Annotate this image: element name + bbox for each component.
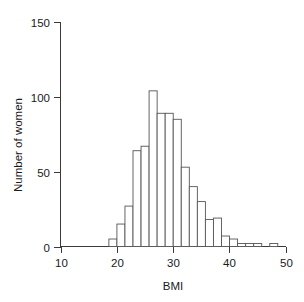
histogram-bar	[197, 202, 205, 247]
histogram-bar	[270, 244, 278, 247]
histogram-bar	[125, 206, 133, 246]
histogram-bars	[109, 91, 278, 247]
histogram-bar	[133, 151, 141, 247]
histogram-bar	[213, 218, 221, 246]
x-axis-title: BMI	[163, 280, 183, 292]
histogram-bar	[109, 239, 117, 246]
x-tick-label-50: 50	[280, 257, 293, 269]
histogram-bar	[165, 113, 173, 246]
y-axis-tick-labels: 050100150	[31, 17, 50, 254]
x-tick-label-30: 30	[167, 257, 180, 269]
histogram-bar	[238, 244, 246, 247]
y-tick-label-0: 0	[44, 242, 50, 254]
y-tick-label-100: 100	[31, 92, 50, 104]
x-tick-label-40: 40	[223, 257, 236, 269]
x-axis-tick-labels: 1020304050	[55, 257, 293, 269]
histogram-bar	[254, 244, 262, 247]
x-tick-label-20: 20	[111, 257, 124, 269]
histogram-bar	[173, 119, 181, 246]
x-tick-label-10: 10	[55, 257, 68, 269]
histogram-bar	[205, 220, 213, 247]
x-axis-ticks	[62, 247, 287, 254]
histogram-bar	[189, 187, 197, 247]
histogram-bar	[230, 239, 238, 246]
histogram-bar	[246, 244, 254, 247]
y-axis-ticks	[54, 23, 61, 248]
y-axis-title: Number of women	[12, 98, 24, 192]
histogram-bar	[149, 91, 157, 247]
histogram-bar	[181, 167, 189, 246]
histogram-bar	[221, 236, 229, 246]
histogram-plot: 050100150 1020304050 BMI Number of women	[0, 0, 304, 302]
y-tick-label-50: 50	[37, 167, 50, 179]
histogram-bar	[117, 224, 125, 246]
histogram-bar	[157, 113, 165, 246]
histogram-figure: 050100150 1020304050 BMI Number of women	[0, 0, 304, 302]
histogram-bar	[141, 146, 149, 246]
y-tick-label-150: 150	[31, 17, 50, 29]
